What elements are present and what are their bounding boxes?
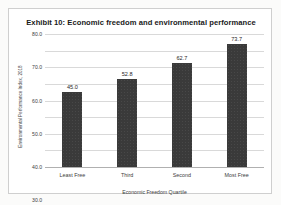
chart-title: Exhibit 10: Economic freedom and environ… <box>9 18 273 27</box>
bar-value-label: 52.8 <box>122 71 133 77</box>
chart-container: Exhibit 10: Economic freedom and environ… <box>8 8 272 194</box>
plot-area: 0.010.020.030.040.050.060.070.080.0 45.0… <box>45 34 264 167</box>
x-axis-line: 0.0 <box>45 167 264 168</box>
y-axis-tick-label: 50.0 <box>32 131 42 137</box>
y-axis-tick-label: 30.0 <box>32 197 42 203</box>
bar-value-label: 45.0 <box>67 84 78 90</box>
bar-group: 62.7Second <box>155 34 210 167</box>
x-axis-title: Economic Freedom Quartile <box>45 189 264 195</box>
bar-value-label: 73.7 <box>231 36 242 42</box>
y-axis-tick-label: 60.0 <box>32 98 42 104</box>
bar-value-label: 62.7 <box>176 55 187 61</box>
x-axis-category-label: Most Free <box>224 172 248 178</box>
x-axis-category-label: Least Free <box>59 172 85 178</box>
y-axis-title: Environmental Performance Index, 2018 <box>18 42 23 172</box>
bar-series: 45.0Least Free52.8Third62.7Second73.7Mos… <box>45 34 264 167</box>
y-axis-tick-label: 70.0 <box>32 64 42 70</box>
bar-group: 73.7Most Free <box>209 34 264 167</box>
bar[interactable] <box>227 44 247 167</box>
page-background: Exhibit 10: Economic freedom and environ… <box>0 0 281 205</box>
bar[interactable] <box>62 92 82 167</box>
bar-group: 45.0Least Free <box>45 34 100 167</box>
x-axis-category-label: Second <box>173 172 191 178</box>
x-axis-category-label: Third <box>121 172 133 178</box>
bar[interactable] <box>117 79 137 167</box>
bar-group: 52.8Third <box>100 34 155 167</box>
y-axis-tick-label: 40.0 <box>32 164 42 170</box>
y-axis-tick-label: 80.0 <box>32 31 42 37</box>
bar[interactable] <box>172 63 192 167</box>
